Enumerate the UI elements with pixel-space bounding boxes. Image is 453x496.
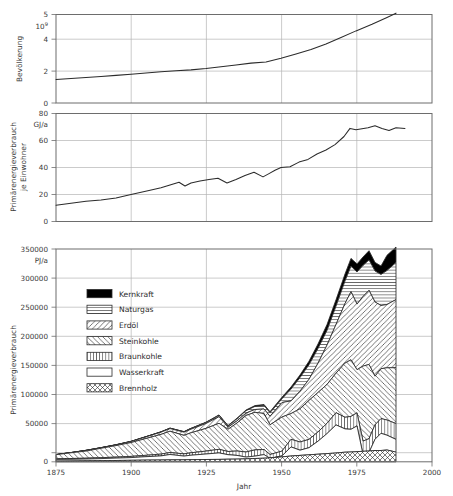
population-ytick-2: 2 <box>43 67 48 76</box>
legend-swatch-erdoel <box>87 321 112 329</box>
legend-label-kernkraft: Kernkraft <box>119 290 154 299</box>
panel-population-ticks <box>52 15 57 104</box>
legend-item-steinkohle: Steinkohle <box>87 337 159 346</box>
legend-item-naturgas: Naturgas <box>87 305 154 314</box>
percapita-ylabel-line1: Primärenergieverbrauch <box>9 122 18 212</box>
legend-label-steinkohle: Steinkohle <box>119 337 159 346</box>
total-ytick-100000: 100000 <box>21 390 49 399</box>
percapita-ytick-60: 60 <box>39 136 49 145</box>
total-ylabel: Primärenergieverbrauch <box>9 325 18 415</box>
legend: Kernkraft Naturgas Erdöl Steinkohle <box>87 290 164 393</box>
x-axis: 1875 1900 1925 1950 1975 2000 Jahr <box>47 462 442 491</box>
population-ylabel: Bevölkerung <box>15 36 24 83</box>
population-ytick-5: 5 <box>43 10 48 19</box>
legend-swatch-steinkohle <box>87 337 112 345</box>
xtick-1875: 1875 <box>47 468 65 477</box>
total-ytick-250000: 250000 <box>21 303 49 312</box>
legend-swatch-kernkraft <box>87 290 112 298</box>
xtick-2000: 2000 <box>423 468 442 477</box>
total-ytick-150000: 150000 <box>21 361 49 370</box>
xtick-1950: 1950 <box>272 468 291 477</box>
percapita-ytick-20: 20 <box>39 190 49 199</box>
population-ytick-0: 0 <box>43 99 48 108</box>
population-unit: 109 <box>36 21 48 31</box>
panel-population-frame <box>56 15 432 104</box>
figure-svg: 5 4 2 0 109 Bevölkerung <box>0 0 453 496</box>
energy-history-figure: 5 4 2 0 109 Bevölkerung <box>0 0 453 496</box>
legend-label-erdoel: Erdöl <box>119 321 138 330</box>
legend-item-erdoel: Erdöl <box>87 321 138 330</box>
x-axis-label: Jahr <box>236 482 252 491</box>
legend-label-wasserkraft: Wasserkraft <box>119 368 164 377</box>
percapita-ytick-0: 0 <box>43 217 48 226</box>
total-ytick-50000: 50000 <box>25 419 48 428</box>
total-unit: PJ/a <box>35 256 48 265</box>
legend-swatch-naturgas <box>87 305 112 313</box>
legend-swatch-wasserkraft <box>87 368 112 376</box>
panel-total-ticks <box>52 249 57 462</box>
percapita-unit: GJ/a <box>33 120 48 129</box>
legend-item-wasserkraft: Wasserkraft <box>87 368 164 377</box>
per-capita-curve <box>56 126 405 206</box>
legend-swatch-brennholz <box>87 384 112 392</box>
panel-per-capita-gridlines <box>56 114 432 222</box>
panel-per-capita: 80 60 40 20 0 GJ/a Primärenergieverbrauc… <box>9 109 432 226</box>
legend-label-braunkohle: Braunkohle <box>119 352 162 361</box>
panel-total-energy: 350000 300000 250000 200000 150000 10000… <box>9 245 442 491</box>
total-ytick-300000: 300000 <box>21 274 49 283</box>
legend-swatch-braunkohle <box>87 352 112 360</box>
panel-population-gridlines <box>56 15 432 104</box>
legend-item-kernkraft: Kernkraft <box>87 290 154 299</box>
panel-population: 5 4 2 0 109 Bevölkerung <box>15 10 432 108</box>
legend-label-naturgas: Naturgas <box>119 305 154 314</box>
xtick-1975: 1975 <box>348 468 366 477</box>
xtick-1900: 1900 <box>122 468 141 477</box>
population-ytick-4: 4 <box>43 35 48 44</box>
percapita-ylabel-line2: je Einwohner <box>19 142 28 192</box>
legend-label-brennholz: Brennholz <box>119 384 157 393</box>
total-ytick-350000: 350000 <box>21 245 49 254</box>
total-ytick-0: 0 <box>43 457 48 466</box>
total-ytick-200000: 200000 <box>21 332 49 341</box>
percapita-ytick-80: 80 <box>39 109 49 118</box>
percapita-ytick-40: 40 <box>39 163 49 172</box>
legend-item-brennholz: Brennholz <box>87 384 157 393</box>
population-curve <box>56 13 396 79</box>
xtick-1925: 1925 <box>197 468 215 477</box>
legend-item-braunkohle: Braunkohle <box>87 352 162 361</box>
panel-per-capita-ticks <box>52 114 57 222</box>
